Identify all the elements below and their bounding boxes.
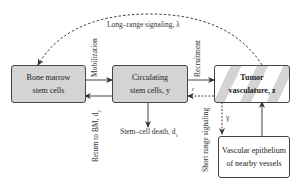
circulating-node: Circulating stem cells, y: [112, 65, 188, 103]
recruitment-label: Recruitment: [193, 40, 202, 77]
vascular-epithelium-node: Vascular epithelium of nearby vessels: [218, 136, 290, 178]
vascular-line2: of nearby vessels: [226, 157, 281, 170]
tumor-line2: vasculature, z: [229, 84, 276, 97]
mobilization-label: Mobilization: [90, 38, 99, 77]
bone-marrow-node: Bone marrow stem cells: [11, 65, 86, 103]
circulating-line2: stem cells, y: [130, 84, 170, 97]
short-range-label: Short range signaling: [201, 108, 210, 172]
stem-cell-death-subscript: 1: [176, 133, 179, 138]
vascular-line1: Vascular epithelium: [222, 144, 286, 157]
tumor-node: Tumor vasculature, z: [214, 65, 290, 103]
return-to-bm-subscript: 2: [97, 110, 102, 113]
gamma-label: γ: [226, 113, 229, 122]
long-range-label: Long–range signaling, λ: [107, 20, 180, 29]
stem-cell-death-text: Stem–cell death, d: [120, 127, 176, 136]
stem-cell-death-label: Stem–cell death, d1: [120, 127, 178, 138]
bone-marrow-line1: Bone marrow: [27, 71, 71, 84]
bone-marrow-line2: stem cells: [33, 84, 65, 97]
return-to-bm-text: Return to BM, d: [91, 113, 100, 162]
r-label: r: [192, 86, 194, 92]
tumor-line1: Tumor: [240, 71, 263, 84]
return-to-bm-label: Return to BM, d2: [91, 110, 102, 162]
circulating-line1: Circulating: [132, 71, 168, 84]
